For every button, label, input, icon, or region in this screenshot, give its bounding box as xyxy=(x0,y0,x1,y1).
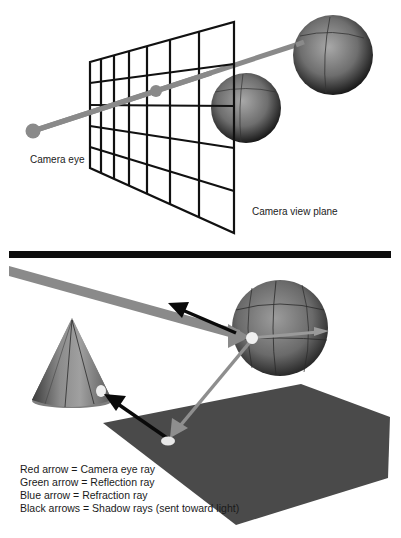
far-sphere xyxy=(293,15,373,95)
legend-refraction-ray: Blue arrow = Refraction ray xyxy=(20,489,148,501)
bottom-panel: Red arrow = Camera eye ray Green arrow =… xyxy=(9,266,390,525)
camera-eye-label: Camera eye xyxy=(30,154,85,165)
pixel-point xyxy=(150,85,162,97)
middle-sphere xyxy=(211,73,281,143)
plane-hit-glow xyxy=(161,437,175,446)
sphere-hit-glow xyxy=(246,332,258,344)
legend-shadow-rays: Black arrows = Shadow rays (sent toward … xyxy=(20,502,239,514)
panel-divider xyxy=(9,251,391,258)
camera-eye-dot xyxy=(26,124,41,139)
view-plane-grid xyxy=(90,22,234,233)
view-plane-label: Camera view plane xyxy=(252,206,338,217)
cone-hit-glow xyxy=(96,385,106,397)
top-panel: Camera eye Camera view plane xyxy=(26,15,374,233)
camera-eye-ray xyxy=(9,266,240,340)
legend-reflection-ray: Green arrow = Reflection ray xyxy=(20,476,155,488)
ray-tracing-diagram: Camera eye Camera view plane xyxy=(0,0,401,538)
bottom-sphere xyxy=(232,280,328,376)
legend-camera-ray: Red arrow = Camera eye ray xyxy=(20,463,156,475)
